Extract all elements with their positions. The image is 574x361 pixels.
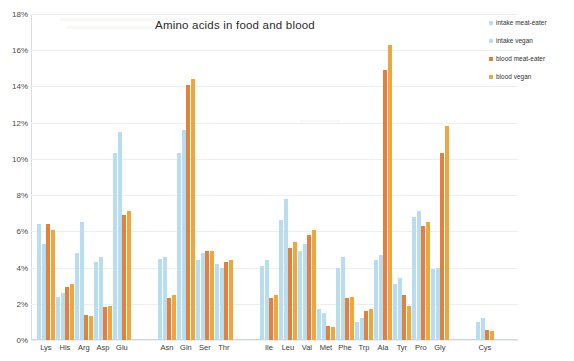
bar [426, 222, 430, 340]
bar [476, 322, 480, 340]
bar [379, 255, 383, 340]
bar [182, 130, 186, 340]
x-axis-tick-label: His [59, 343, 70, 352]
bar [345, 298, 349, 340]
bar [303, 244, 307, 340]
bar [350, 297, 354, 340]
bar [279, 220, 283, 340]
bar-group [158, 14, 177, 340]
bar [75, 253, 79, 340]
bar-group [393, 14, 412, 340]
x-axis-tick-label: Leu [282, 343, 295, 352]
bar-group [279, 14, 298, 340]
x-axis-tick-label: Cys [478, 343, 491, 352]
x-axis-tick-label: Ser [199, 343, 211, 352]
bar [485, 330, 489, 340]
amino-acid-bar-chart: Amino acids in food and blood 0%2%4%6%8%… [0, 0, 574, 361]
bar [177, 153, 181, 340]
y-axis-tick-label: 4% [2, 263, 28, 272]
x-axis-tick-label: Asp [96, 343, 109, 352]
bar [393, 284, 397, 340]
bar [94, 262, 98, 340]
bar-group [317, 14, 336, 340]
legend-item[interactable]: blood vegan [489, 70, 574, 83]
bar-group [374, 14, 393, 340]
x-axis-tick-label: Tyr [397, 343, 407, 352]
bar [61, 293, 65, 340]
x-axis-tick-label: Arg [78, 343, 90, 352]
bar-group [355, 14, 374, 340]
bar [113, 153, 117, 340]
bar [274, 295, 278, 340]
bar [46, 224, 50, 340]
chart-legend: intake meat-eaterintake veganblood meat-… [489, 16, 574, 88]
bar [65, 287, 69, 340]
legend-swatch-icon [489, 39, 493, 43]
y-axis: 0%2%4%6%8%10%12%14%16%18% [0, 14, 28, 340]
bar [407, 306, 411, 340]
y-axis-tick-label: 10% [2, 154, 28, 163]
bar-group [94, 14, 113, 340]
bar [436, 268, 440, 340]
legend-item[interactable]: intake vegan [489, 34, 574, 47]
bar [186, 85, 190, 340]
bar [364, 311, 368, 340]
gridline [31, 340, 518, 341]
bar [42, 244, 46, 340]
bar [317, 309, 321, 340]
y-axis-tick-label: 14% [2, 82, 28, 91]
bar [374, 260, 378, 340]
legend-swatch-icon [489, 21, 493, 25]
x-axis-tick-label: Pro [415, 343, 427, 352]
legend-item[interactable]: blood meat-eater [489, 52, 574, 65]
legend-item[interactable]: intake meat-eater [489, 16, 574, 29]
bar [355, 322, 359, 340]
bar [172, 295, 176, 340]
bar [322, 313, 326, 340]
bar [191, 79, 195, 340]
y-axis-tick-label: 16% [2, 46, 28, 55]
x-axis-tick-label: Ile [265, 343, 273, 352]
bar [127, 211, 131, 340]
x-axis-tick-label: Thr [218, 343, 229, 352]
legend-item-label: blood meat-eater [496, 55, 545, 62]
legend-item-label: intake vegan [496, 37, 533, 44]
x-axis-tick-label: Trp [358, 343, 369, 352]
y-axis-tick-label: 6% [2, 227, 28, 236]
bar [269, 298, 273, 340]
y-axis-tick-label: 8% [2, 191, 28, 200]
x-axis: LysHisArgAspGluAsnGlnSerThrIleLeuValMetP… [31, 343, 518, 361]
bar [118, 132, 122, 340]
bar [265, 260, 269, 340]
bar [229, 260, 233, 340]
bar [431, 269, 435, 340]
bar [490, 331, 494, 340]
bar [341, 257, 345, 340]
legend-item-label: blood vegan [496, 73, 531, 80]
legend-item-label: intake meat-eater [496, 19, 547, 26]
bar-group [113, 14, 132, 340]
bar-group [336, 14, 355, 340]
x-axis-tick-label: Ala [377, 343, 388, 352]
x-axis-tick-label: Met [320, 343, 333, 352]
bar [481, 318, 485, 340]
bar [336, 268, 340, 340]
bar [158, 259, 162, 341]
bar [80, 222, 84, 340]
bar-group [431, 14, 450, 340]
bar [163, 257, 167, 340]
bar-group [75, 14, 94, 340]
x-axis-tick-label: Glu [116, 343, 128, 352]
bar [210, 251, 214, 340]
bar [37, 224, 41, 340]
y-axis-tick-label: 0% [2, 336, 28, 345]
bar [84, 315, 88, 340]
bar [440, 153, 444, 340]
bar [284, 199, 288, 340]
bar [402, 295, 406, 340]
x-axis-tick-label: Gly [434, 343, 445, 352]
bar [421, 226, 425, 340]
x-axis-tick-label: Lys [40, 343, 51, 352]
bar [360, 318, 364, 340]
bar [417, 211, 421, 340]
